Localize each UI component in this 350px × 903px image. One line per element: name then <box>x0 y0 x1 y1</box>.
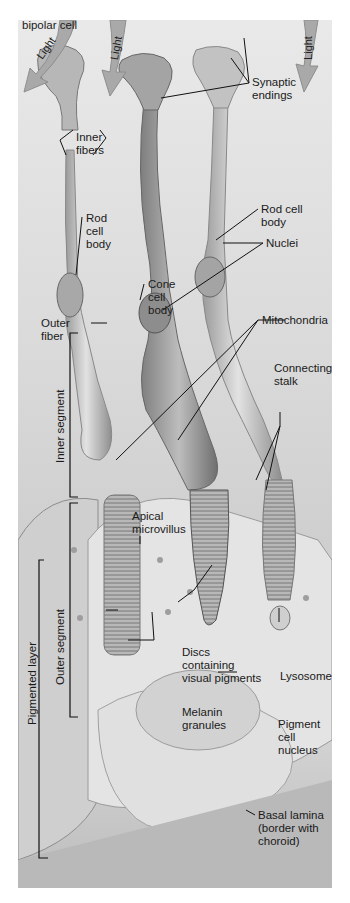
label-pigmented-layer: Pigmented layer <box>26 642 38 725</box>
label-synaptic-endings: Synaptic endings <box>252 76 296 102</box>
cone-synaptic-ending <box>119 53 172 110</box>
label-lysosome: Lysosome <box>280 670 332 683</box>
label-cone-cell-body: Cone cell body <box>148 278 176 317</box>
light-label-3: Light <box>302 36 314 60</box>
label-discs: Discs containing visual pigments <box>182 646 261 685</box>
right-rod-synaptic-ending <box>193 46 245 108</box>
lysosome-shape <box>270 606 290 630</box>
label-nuclei: Nuclei <box>266 237 298 250</box>
label-inner-segment: Inner segment <box>54 389 66 463</box>
label-melanin-granules: Melanin granules <box>182 706 226 732</box>
label-process-bipolar: Process of bipolar cell <box>22 20 77 32</box>
label-rod-cell-body-right: Rod cell body <box>261 203 303 229</box>
label-outer-segment: Outer segment <box>54 609 66 685</box>
label-connecting-stalk: Connecting stalk <box>274 362 332 388</box>
label-basal-lamina: Basal lamina (border with choroid) <box>258 809 324 848</box>
label-mitochondria: Mitochondria <box>262 314 328 327</box>
label-pigment-cell-nucleus: Pigment cell nucleus <box>278 718 320 757</box>
right-rod-outer-segment <box>262 480 295 600</box>
illustration-panel: Light Light Light Process of bipolar cel… <box>18 20 332 888</box>
left-rod-nucleus <box>57 273 83 317</box>
label-apical-microvillus: Apical microvillus <box>132 510 186 536</box>
label-inner-fibers: Inner fibers <box>76 131 104 157</box>
label-rod-cell-body-left: Rod cell body <box>86 212 111 251</box>
right-rod-nucleus <box>195 257 225 297</box>
label-outer-fiber: Outer fiber <box>41 317 70 343</box>
